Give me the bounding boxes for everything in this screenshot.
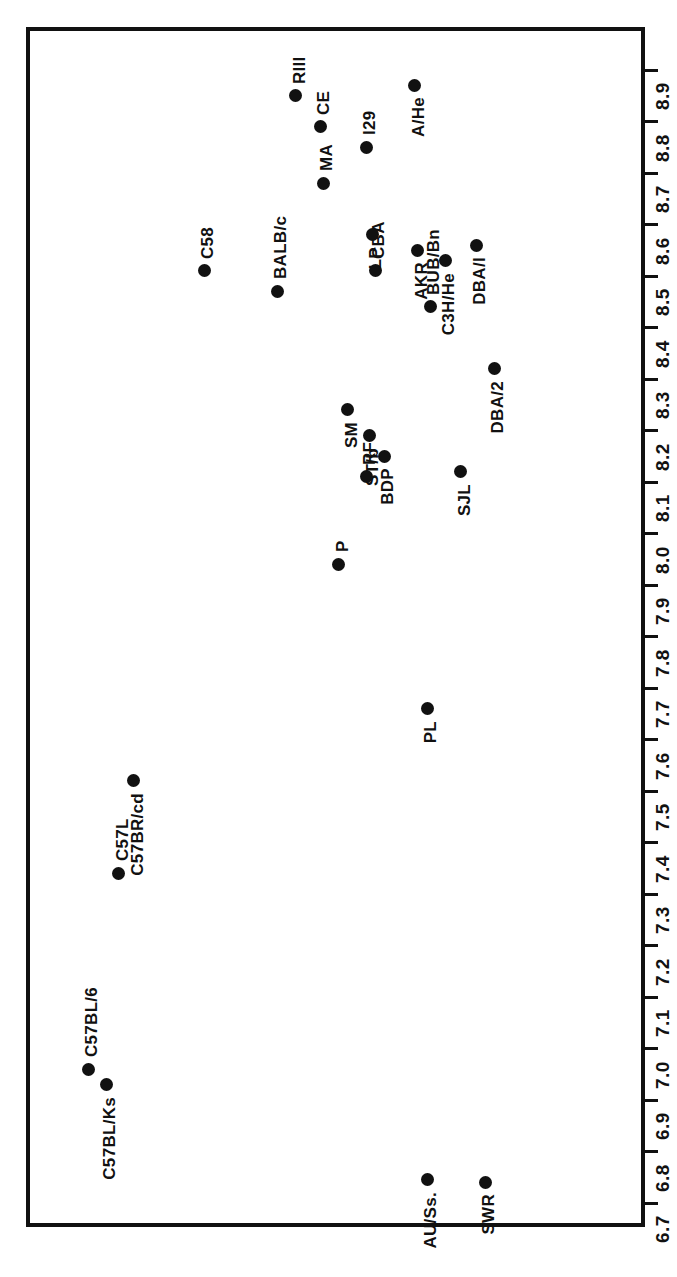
axis-tick-label-7.2: 7.2: [652, 926, 672, 986]
data-point-label: CBA: [369, 221, 389, 259]
axis-tick-label-7.0: 7.0: [652, 1029, 672, 1089]
data-point-label: BDP: [378, 468, 398, 505]
axis-tick-label-6.8: 6.8: [652, 1132, 672, 1192]
data-point: [369, 264, 382, 277]
data-point-label: RIII: [290, 56, 310, 84]
data-point: [488, 362, 501, 375]
axis-tick-label-8.9: 8.9: [652, 50, 672, 110]
data-point-label: DBA/I: [470, 257, 490, 305]
axis-tick-label-8.7: 8.7: [652, 153, 672, 213]
axis-tick-label-7.6: 7.6: [652, 720, 672, 780]
data-point: [360, 470, 373, 483]
data-point-label: C57BL/6: [82, 987, 102, 1057]
data-point: [470, 239, 483, 252]
data-point-label: AU/Ss.: [421, 1192, 441, 1249]
data-point-label: SJL: [455, 484, 475, 516]
data-point-label: RF: [360, 442, 380, 465]
axis-tick-label-7.3: 7.3: [652, 874, 672, 934]
data-point-label: I29: [360, 111, 380, 136]
data-point: [317, 177, 330, 190]
data-point: [198, 264, 211, 277]
axis-tick-label-8.3: 8.3: [652, 359, 672, 419]
data-point: [360, 141, 373, 154]
axis-tick-label-7.9: 7.9: [652, 565, 672, 625]
axis-tick-label-8.8: 8.8: [652, 102, 672, 162]
axis-tick-label-7.7: 7.7: [652, 668, 672, 728]
data-point-label: P: [333, 541, 353, 553]
axis-tick-label-7.4: 7.4: [652, 823, 672, 883]
axis-tick-label-7.5: 7.5: [652, 771, 672, 831]
data-point-label: C57L: [113, 819, 133, 862]
axis-tick-label-7.8: 7.8: [652, 617, 672, 677]
axis-tick-label-8.5: 8.5: [652, 256, 672, 316]
axis-tick-label-6.7: 6.7: [652, 1183, 672, 1243]
data-point-label: MA: [317, 144, 337, 171]
data-point-label: A/He: [409, 97, 429, 137]
data-point: [421, 702, 434, 715]
data-point-label: BALB/c: [271, 216, 291, 279]
axis-tick-label-8.4: 8.4: [652, 308, 672, 368]
data-point: [112, 867, 125, 880]
data-point-label: CE: [314, 90, 334, 114]
data-point-label: C57BL/Ks: [100, 1097, 120, 1180]
data-point-label: DBA/2: [488, 381, 508, 434]
data-point: [271, 285, 284, 298]
data-point-label: PL: [421, 721, 441, 743]
axis-tick-label-8.0: 8.0: [652, 514, 672, 574]
axis-tick-label-8.2: 8.2: [652, 411, 672, 471]
axis-tick-label-6.9: 6.9: [652, 1080, 672, 1140]
axis-tick-label-7.1: 7.1: [652, 977, 672, 1037]
data-point-label: SM: [342, 422, 362, 448]
data-point: [332, 558, 345, 571]
data-point-label: SWR: [479, 1194, 499, 1235]
data-point: [479, 1176, 492, 1189]
data-point: [363, 429, 376, 442]
data-point: [100, 1078, 113, 1091]
axis-tick-label-8.1: 8.1: [652, 462, 672, 522]
data-point: [314, 120, 327, 133]
data-point-label: BUB/Bn: [424, 229, 444, 295]
data-point: [421, 1173, 434, 1186]
axis-tick-label-8.6: 8.6: [652, 205, 672, 265]
data-point: [82, 1063, 95, 1076]
data-point-label: C58: [198, 227, 218, 259]
